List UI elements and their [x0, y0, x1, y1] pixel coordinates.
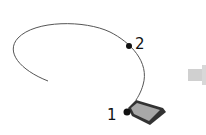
point-2-label: 2: [135, 37, 145, 52]
diagram-canvas: [0, 0, 206, 135]
point-1-label: 1: [107, 108, 117, 123]
point-1-marker: [124, 109, 131, 116]
trajectory-curve: [13, 24, 144, 100]
paddle-shape-icon: [128, 100, 166, 125]
arrow-right-icon: [188, 65, 206, 85]
point-2-marker: [126, 43, 132, 49]
